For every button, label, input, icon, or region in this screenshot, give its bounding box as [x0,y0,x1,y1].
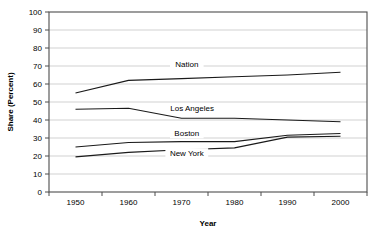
y-axis-tick-label: 50 [33,98,42,107]
x-axis-tick-label: 2000 [332,198,350,207]
y-axis-tick-labels: 0102030405060708090100 [29,8,43,197]
series-line-group [76,72,341,157]
y-axis-tick-label: 60 [33,80,42,89]
x-axis-tick-label: 1970 [173,198,191,207]
series-label-new-york: New York [170,149,205,158]
y-axis-tick-label: 30 [33,134,42,143]
x-axis-tick-group [49,192,367,196]
x-axis-tick-label: 1990 [279,198,297,207]
series-line-nation [76,72,341,93]
chart-container: 0102030405060708090100 19501960197019801… [0,0,385,235]
y-axis-tick-label: 20 [33,152,42,161]
y-axis-tick-label: 80 [33,44,42,53]
y-axis-tick-label: 40 [33,116,42,125]
line-chart: 0102030405060708090100 19501960197019801… [0,0,385,235]
series-label-group: NationLos AngelesBostonNew York [164,59,221,158]
y-axis-tick-label: 0 [38,188,43,197]
y-axis-tick-label: 100 [29,8,43,17]
y-axis-tick-label: 90 [33,26,42,35]
series-label-boston: Boston [174,129,199,138]
y-axis-title: Share (Percent) [6,72,15,131]
y-axis-tick-group [45,12,49,192]
x-axis-title: Year [200,219,217,228]
series-line-boston [76,134,341,148]
x-axis-tick-label: 1980 [226,198,244,207]
series-label-los-angeles: Los Angeles [170,104,214,113]
series-label-nation: Nation [175,60,198,69]
x-axis-tick-label: 1960 [120,198,138,207]
y-axis-tick-label: 10 [33,170,42,179]
x-axis-tick-labels: 195019601970198019902000 [67,198,350,207]
x-axis-tick-label: 1950 [67,198,85,207]
y-axis-tick-label: 70 [33,62,42,71]
